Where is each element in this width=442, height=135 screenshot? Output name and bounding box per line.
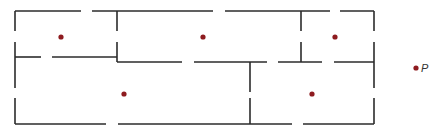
room-bottom-left-point xyxy=(121,91,126,96)
room-top-middle-point xyxy=(200,34,205,39)
external-point-p-label: P xyxy=(421,62,429,74)
walls xyxy=(15,11,374,124)
external-point-p-dot xyxy=(413,65,418,70)
external-point-p: P xyxy=(413,62,429,74)
room-points xyxy=(58,34,337,96)
room-top-right-point xyxy=(332,34,337,39)
room-bottom-right-point xyxy=(309,91,314,96)
floor-plan-diagram: P xyxy=(0,0,442,135)
room-top-left-point xyxy=(58,34,63,39)
